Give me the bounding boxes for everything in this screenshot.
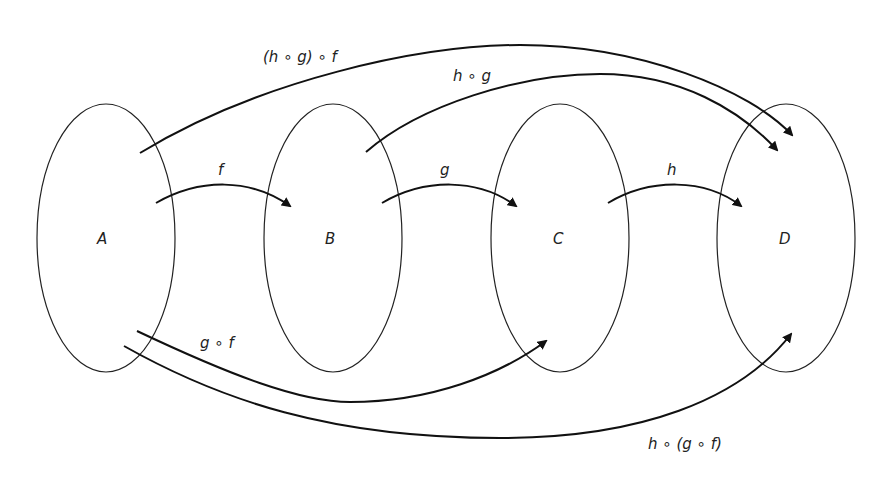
label-hg-compose-f: (h ∘ g) ∘ f	[263, 48, 340, 66]
arrow-h	[608, 185, 741, 206]
set-b-label: B	[325, 230, 335, 248]
label-g: g	[440, 161, 450, 179]
label-h-compose-g: h ∘ g	[453, 67, 491, 85]
arrow-hg-compose-f	[140, 45, 792, 153]
composition-diagram: A B C D f g h (h ∘ g) ∘ f h ∘ g g ∘ f h …	[0, 0, 879, 479]
label-h-compose-gf: h ∘ (g ∘ f)	[648, 435, 722, 453]
arrow-g-compose-f	[137, 331, 546, 402]
set-c-label: C	[553, 230, 564, 248]
label-g-compose-f: g ∘ f	[200, 334, 236, 352]
label-f: f	[218, 161, 226, 179]
set-d-label: D	[779, 230, 791, 248]
set-a-label: A	[96, 230, 107, 248]
arrow-f	[156, 185, 290, 206]
label-h: h	[667, 161, 677, 179]
